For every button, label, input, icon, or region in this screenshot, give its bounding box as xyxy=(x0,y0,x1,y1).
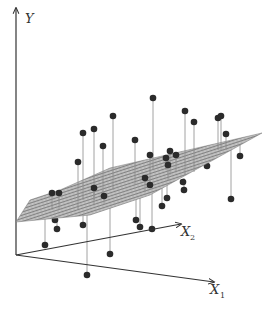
data-point xyxy=(80,130,87,137)
svg-text:X: X xyxy=(209,282,220,297)
data-point xyxy=(165,162,172,169)
data-point xyxy=(142,175,149,182)
data-point xyxy=(181,187,188,194)
data-point xyxy=(167,148,174,155)
axes xyxy=(16,8,214,282)
data-point xyxy=(101,193,108,200)
data-point xyxy=(228,196,235,203)
data-point xyxy=(110,113,117,120)
data-point xyxy=(147,152,154,159)
data-point xyxy=(180,179,187,186)
data-point xyxy=(137,224,144,231)
data-point xyxy=(107,251,114,258)
data-point xyxy=(132,137,139,144)
data-point xyxy=(91,185,98,192)
data-point xyxy=(42,242,49,249)
data-point xyxy=(164,195,171,202)
data-point xyxy=(91,126,98,133)
data-point xyxy=(182,108,189,115)
data-point xyxy=(80,222,87,229)
data-point xyxy=(150,95,157,102)
data-point xyxy=(84,272,91,279)
data-point xyxy=(100,143,107,150)
data-point xyxy=(223,131,230,138)
data-point xyxy=(147,182,154,189)
data-point xyxy=(75,159,82,166)
data-point xyxy=(191,119,198,126)
data-point xyxy=(56,190,63,197)
data-point xyxy=(173,152,180,159)
y-axis-label: Y xyxy=(25,11,35,26)
regression-plane-figure: Y X 2 X 1 xyxy=(0,0,275,309)
data-point xyxy=(49,190,56,197)
regression-plane xyxy=(16,133,262,222)
data-point xyxy=(159,203,166,210)
x2-axis-label: X 2 xyxy=(180,224,195,242)
svg-text:1: 1 xyxy=(220,291,225,300)
data-point xyxy=(54,226,61,233)
x2-axis xyxy=(16,224,181,255)
data-point xyxy=(218,113,225,120)
data-point xyxy=(237,153,244,160)
x1-axis xyxy=(16,255,214,282)
svg-text:2: 2 xyxy=(190,233,195,242)
data-point xyxy=(163,155,170,162)
x1-axis-label: X 1 xyxy=(209,282,225,300)
data-point xyxy=(133,217,140,224)
